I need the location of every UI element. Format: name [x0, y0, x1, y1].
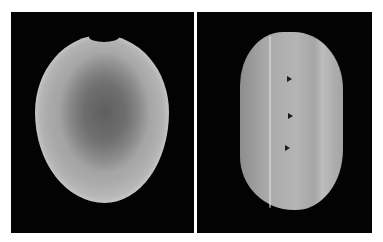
arrowhead-icon — [287, 76, 292, 82]
micrograph-panel-left — [11, 12, 194, 233]
seed-side-view — [240, 32, 343, 210]
seed-apical-notch — [89, 32, 119, 42]
micrograph-panel-right — [197, 12, 372, 233]
arrowhead-icon — [285, 145, 290, 151]
arrowhead-icon — [288, 113, 293, 119]
seed-longitudinal-ridge — [269, 36, 271, 208]
seed-front-view — [35, 35, 169, 203]
